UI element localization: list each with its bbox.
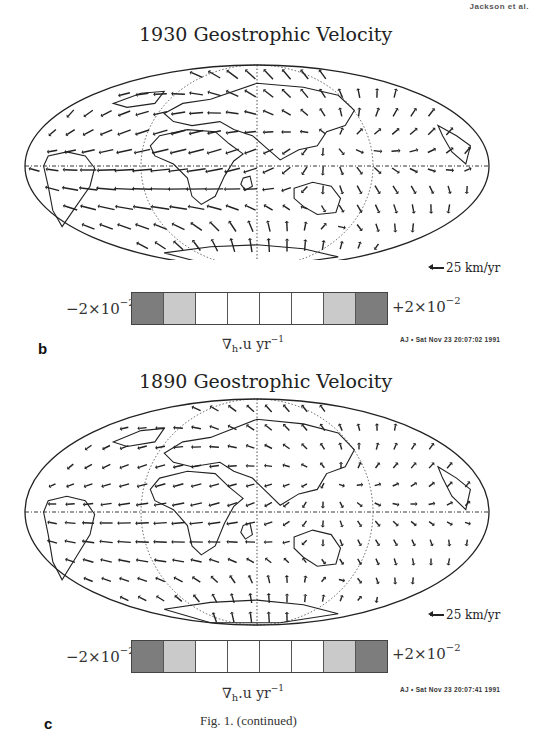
panel-b-colorbar-units: ∇h.u yr−1	[222, 334, 284, 354]
colorbar-bin-7	[356, 293, 387, 324]
panel-c-scale-legend: 25 km/yr	[430, 608, 500, 622]
colorbar-bin-1	[164, 641, 196, 672]
colorbar-bin-0	[132, 293, 164, 324]
colorbar-bin-3	[228, 293, 260, 324]
panel-c-colorbar-units: ∇h.u yr−1	[222, 683, 284, 703]
panel-b-title: 1930 Geostrophic Velocity	[139, 23, 392, 45]
panel-b-scale-label: 25 km/yr	[446, 261, 500, 275]
colorbar-bin-4	[260, 641, 292, 672]
colorbar-bin-3	[228, 641, 260, 672]
colorbar-bin-6	[324, 293, 356, 324]
running-header: Jackson et al.	[470, 2, 529, 11]
colorbar-bin-4	[260, 293, 292, 324]
colorbar-bin-0	[132, 641, 164, 672]
panel-b-colorbar-min: −2×10−2	[66, 297, 135, 318]
panel-c-colorbar	[131, 640, 388, 673]
panel-c-scale-label: 25 km/yr	[446, 608, 500, 622]
velocity-arrows	[29, 69, 472, 252]
panel-b-colorbar-max: +2×10−2	[392, 295, 461, 316]
panel-c-map	[0, 388, 537, 628]
panel-b-colorbar	[131, 292, 388, 325]
colorbar-bin-1	[164, 293, 196, 324]
panel-b-timestamp: AJ • Sat Nov 23 20:07:02 1991	[400, 336, 500, 343]
velocity-arrows	[47, 405, 471, 623]
panel-c-colorbar-min: −2×10−2	[66, 645, 135, 666]
scale-arrow-icon	[430, 267, 444, 269]
colorbar-bin-5	[292, 293, 324, 324]
panel-c-timestamp: AJ • Sat Nov 23 20:07:41 1991	[400, 686, 500, 693]
panel-c-colorbar-max: +2×10−2	[392, 642, 461, 663]
colorbar-bin-5	[292, 641, 324, 672]
scale-arrow-icon	[430, 614, 444, 616]
panel-b-scale-legend: 25 km/yr	[430, 261, 500, 275]
panel-b-letter: b	[38, 340, 47, 357]
panel-b-map	[0, 45, 537, 260]
colorbar-bin-6	[324, 641, 356, 672]
panel-c-letter: c	[44, 715, 52, 732]
colorbar-bin-2	[196, 293, 228, 324]
colorbar-bin-2	[196, 641, 228, 672]
figure-caption: Fig. 1. (continued)	[200, 713, 297, 729]
colorbar-bin-7	[356, 641, 387, 672]
